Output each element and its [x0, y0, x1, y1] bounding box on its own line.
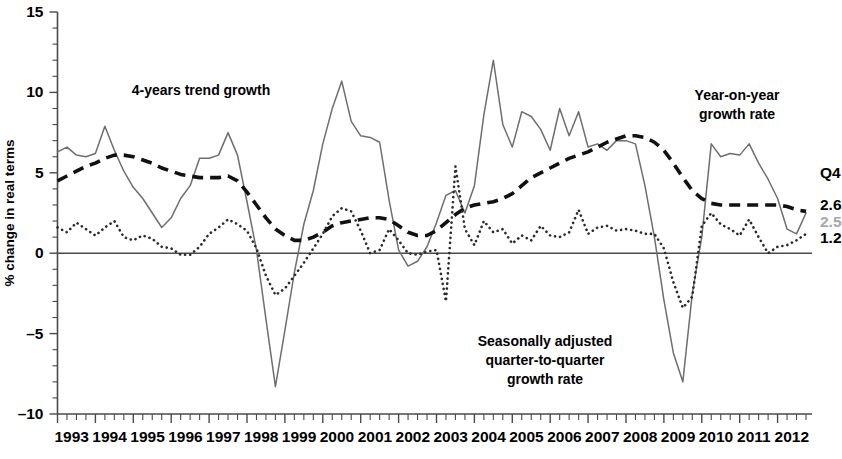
end-period-label: Q4: [820, 164, 841, 181]
y-axis-tick-label: –10: [18, 405, 44, 422]
x-axis-tick-label: 1995: [130, 428, 165, 445]
axes: [50, 12, 813, 423]
y-axis-tick-label: 10: [26, 83, 43, 100]
x-axis-tick-label: 2007: [585, 428, 619, 445]
series-line-dashed: [58, 136, 807, 241]
x-axis-tick-label: 2006: [547, 428, 582, 445]
x-axis-tick-label: 2001: [358, 428, 393, 445]
x-axis-tick-label: 2003: [433, 428, 468, 445]
growth-rate-line-chart: 151050–5–1019931994199519961997199819992…: [0, 0, 842, 459]
annot-yoy-line2: growth rate: [699, 106, 775, 122]
axis-labels: 151050–5–1019931994199519961997199819992…: [2, 3, 809, 445]
x-axis-tick-label: 1994: [92, 428, 127, 445]
series-line-solid: [58, 60, 807, 386]
x-axis-tick-label: 2000: [320, 428, 354, 445]
annot-qtq-line2: quarter-to-quarter: [485, 352, 605, 368]
x-axis-tick-label: 1993: [54, 428, 89, 445]
x-axis-tick-label: 1996: [168, 428, 203, 445]
y-axis-tick-label: 15: [26, 3, 44, 20]
x-axis-tick-label: 2011: [737, 428, 771, 445]
annot-trend: 4-years trend growth: [132, 82, 270, 98]
y-axis-tick-label: 5: [35, 164, 44, 181]
end-value-trend: 2.6: [820, 196, 842, 213]
end-value-yoy: 2.5: [820, 213, 842, 230]
x-axis-tick-label: 2008: [623, 428, 658, 445]
annot-qtq-line3: growth rate: [507, 371, 583, 387]
chart-container: 151050–5–1019931994199519961997199819992…: [0, 0, 842, 459]
x-axis-tick-label: 2002: [396, 428, 430, 445]
annot-qtq-line1: Seasonally adjusted: [478, 333, 613, 349]
y-axis-tick-label: –5: [26, 325, 44, 342]
x-axis-tick-label: 1997: [206, 428, 240, 445]
y-axis-tick-label: 0: [35, 244, 44, 261]
end-value-qtq: 1.2: [820, 229, 842, 246]
x-axis-tick-label: 2004: [471, 428, 506, 445]
chart-annotations: 4-years trend growthYear-on-yeargrowth r…: [132, 82, 780, 387]
x-axis-tick-label: 1999: [282, 428, 317, 445]
x-axis-tick-label: 1998: [244, 428, 279, 445]
y-axis-title: % change in real terms: [2, 139, 17, 286]
x-axis-tick-label: 2010: [699, 428, 733, 445]
x-axis-tick-label: 2005: [509, 428, 544, 445]
x-axis-tick-label: 2009: [661, 428, 696, 445]
end-value-labels: Q42.62.51.2: [820, 164, 842, 246]
annot-yoy-line1: Year-on-year: [695, 87, 780, 103]
series-line-dotted: [58, 166, 807, 308]
data-series-layer: [58, 60, 807, 386]
x-axis-tick-label: 2012: [775, 428, 809, 445]
